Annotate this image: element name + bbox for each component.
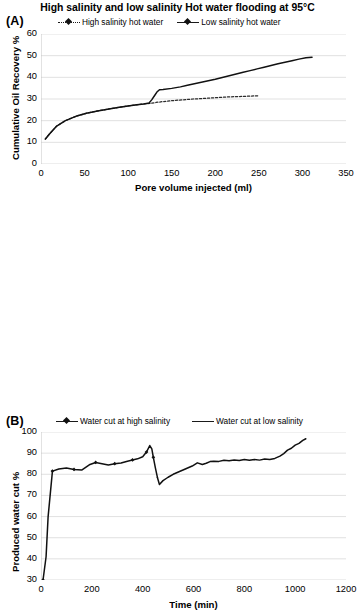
x-axis-tick: 150 xyxy=(156,168,188,178)
y-axis-tick: 100 xyxy=(11,426,37,436)
x-axis-tick: 400 xyxy=(127,584,159,594)
panel-b-svg xyxy=(41,432,346,580)
panel-a-label: (A) xyxy=(6,14,24,28)
panel-b: (B) Water cut at high salinity Water cut… xyxy=(0,200,355,426)
legend-label: Water cut at low salinity xyxy=(216,416,303,426)
x-axis-tick: 800 xyxy=(228,584,260,594)
panel-a-plot-area xyxy=(41,34,346,164)
y-axis-tick: 40 xyxy=(11,71,37,81)
y-axis-tick: 80 xyxy=(11,468,37,478)
y-axis-tick: 30 xyxy=(11,93,37,103)
y-axis-tick: 50 xyxy=(11,50,37,60)
y-axis-tick: 30 xyxy=(11,574,37,584)
legend-label: Low salinity hot water xyxy=(201,17,280,27)
y-axis-tick: 60 xyxy=(11,28,37,38)
panel-a-x-axis-label: Pore volume injected (ml) xyxy=(41,182,346,193)
solid-line-diamond-icon xyxy=(177,18,199,26)
panel-a: High salinity and low salinity Hot water… xyxy=(0,0,355,200)
legend-label: Water cut at high salinity xyxy=(80,416,170,426)
y-axis-tick: 10 xyxy=(11,136,37,146)
legend-label: High salinity hot water xyxy=(82,17,163,27)
panel-b-plot-area xyxy=(41,432,346,580)
panel-a-legend: High salinity hot water Low salinity hot… xyxy=(58,17,281,27)
x-axis-tick: 600 xyxy=(178,584,210,594)
x-axis-tick: 350 xyxy=(330,168,361,178)
x-axis-tick: 0 xyxy=(25,168,57,178)
panel-a-title: High salinity and low salinity Hot water… xyxy=(0,2,355,13)
legend-item-low-salinity-hot-water[interactable]: Low salinity hot water xyxy=(177,17,280,27)
x-axis-tick: 0 xyxy=(25,584,57,594)
x-axis-tick: 1200 xyxy=(330,584,361,594)
panel-a-svg xyxy=(41,34,346,164)
x-axis-tick: 300 xyxy=(286,168,318,178)
y-axis-tick: 50 xyxy=(11,532,37,542)
y-axis-tick: 90 xyxy=(11,447,37,457)
x-axis-tick: 50 xyxy=(69,168,101,178)
x-axis-tick: 100 xyxy=(112,168,144,178)
y-axis-tick: 40 xyxy=(11,553,37,563)
legend-item-high-salinity-hot-water[interactable]: High salinity hot water xyxy=(58,17,163,27)
y-axis-tick: 70 xyxy=(11,489,37,499)
x-axis-tick: 1000 xyxy=(279,584,311,594)
dashed-line-diamond-icon xyxy=(58,18,80,26)
solid-line-diamond-icon xyxy=(56,417,78,425)
y-axis-tick: 60 xyxy=(11,511,37,521)
y-axis-tick: 0 xyxy=(11,158,37,168)
solid-line-icon xyxy=(192,417,214,425)
x-axis-tick: 250 xyxy=(243,168,275,178)
panel-b-legend: Water cut at high salinity Water cut at … xyxy=(56,416,303,426)
legend-item-water-cut-low-salinity[interactable]: Water cut at low salinity xyxy=(192,416,303,426)
x-axis-tick: 200 xyxy=(76,584,108,594)
y-axis-tick: 20 xyxy=(11,115,37,125)
panel-b-x-axis-label: Time (min) xyxy=(41,599,346,610)
legend-item-water-cut-high-salinity[interactable]: Water cut at high salinity xyxy=(56,416,170,426)
x-axis-tick: 200 xyxy=(199,168,231,178)
